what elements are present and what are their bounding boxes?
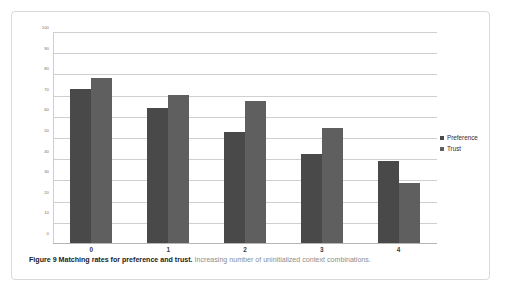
bar-chart: 1009080706050403020100 01234 PreferenceT… bbox=[12, 12, 491, 244]
bar-group bbox=[139, 32, 197, 244]
figure-caption: Figure 9 Matching rates for preference a… bbox=[29, 255, 469, 267]
x-axis-tick-label: 4 bbox=[370, 246, 428, 253]
x-axis-tick-label: 3 bbox=[293, 246, 351, 253]
y-axis-tick-label: 40 bbox=[25, 148, 49, 153]
bar-preference-1 bbox=[147, 108, 168, 244]
figure-card: 1009080706050403020100 01234 PreferenceT… bbox=[11, 11, 490, 280]
square-marker-icon bbox=[440, 147, 444, 151]
legend-label: Preference bbox=[447, 134, 478, 141]
x-axis-line bbox=[53, 243, 437, 244]
y-axis-tick-label: 60 bbox=[25, 107, 49, 112]
legend-label: Trust bbox=[447, 145, 461, 152]
caption-title: Figure 9 Matching rates for preference a… bbox=[29, 256, 193, 264]
y-axis-tick-label: 50 bbox=[25, 128, 49, 133]
caption-description: Increasing number of uninitialized conte… bbox=[193, 256, 371, 264]
bar-preference-0 bbox=[70, 89, 91, 244]
bar-trust-1 bbox=[168, 95, 189, 244]
y-axis-tick-label: 100 bbox=[25, 25, 49, 30]
bar-group bbox=[62, 32, 120, 244]
x-axis-tick-label: 0 bbox=[62, 246, 120, 253]
bar-preference-2 bbox=[224, 132, 245, 244]
legend-item-trust[interactable]: Trust bbox=[440, 143, 490, 154]
bar-trust-2 bbox=[245, 101, 266, 244]
y-axis-tick-label: 0 bbox=[25, 231, 49, 236]
square-marker-icon bbox=[440, 136, 444, 140]
chart-legend: PreferenceTrust bbox=[440, 132, 490, 154]
y-axis-tick-label: 80 bbox=[25, 66, 49, 71]
bar-preference-4 bbox=[378, 161, 399, 244]
y-axis: 1009080706050403020100 bbox=[25, 27, 49, 233]
y-axis-tick-label: 70 bbox=[25, 86, 49, 91]
y-axis-tick-label: 10 bbox=[25, 210, 49, 215]
legend-item-preference[interactable]: Preference bbox=[440, 132, 490, 143]
bar-trust-4 bbox=[399, 183, 420, 244]
bar-preference-3 bbox=[301, 154, 322, 244]
bar-group bbox=[370, 32, 428, 244]
bar-trust-0 bbox=[91, 78, 112, 244]
plot-area bbox=[53, 32, 437, 244]
y-axis-tick-label: 90 bbox=[25, 45, 49, 50]
bar-group bbox=[293, 32, 351, 244]
bar-groups bbox=[53, 32, 437, 244]
y-axis-tick-label: 30 bbox=[25, 169, 49, 174]
bar-trust-3 bbox=[322, 128, 343, 244]
x-axis-tick-label: 1 bbox=[139, 246, 197, 253]
bar-group bbox=[216, 32, 274, 244]
y-axis-tick-label: 20 bbox=[25, 189, 49, 194]
x-axis-tick-label: 2 bbox=[216, 246, 274, 253]
